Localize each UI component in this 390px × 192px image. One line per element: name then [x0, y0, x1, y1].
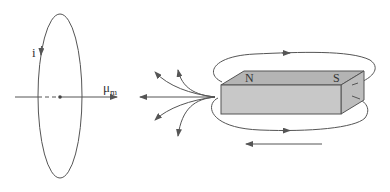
current-label: i — [32, 45, 36, 60]
bar-magnet — [221, 71, 364, 114]
north-pole-label: N — [245, 71, 254, 85]
loop-center-dot — [58, 95, 62, 99]
diagram-canvas: i μm N S — [0, 0, 390, 192]
magnet-top-face — [221, 71, 364, 85]
south-pole-label: S — [333, 71, 340, 85]
magnetic-moment-axis — [15, 95, 117, 99]
diverging-field-lines — [140, 70, 215, 136]
magnetic-moment-label: μm — [103, 80, 117, 97]
magnet-front-face — [221, 85, 341, 114]
current-direction-arrow-icon — [41, 46, 42, 55]
